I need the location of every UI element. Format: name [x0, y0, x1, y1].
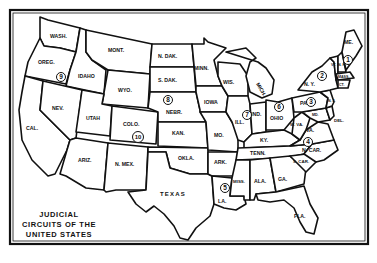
svg-text:6: 6	[277, 103, 281, 110]
label-nd: N. DAK.	[158, 53, 178, 59]
label-la: LA.	[218, 198, 227, 204]
label-al: ALA.	[254, 178, 267, 184]
label-ga: GA.	[278, 176, 288, 182]
label-va: VA.	[306, 127, 315, 133]
label-de: DEL.	[334, 118, 344, 123]
state-fl[interactable]	[256, 186, 318, 234]
label-wy: WYO.	[118, 87, 132, 93]
circuit-marker-2[interactable]: 2	[318, 72, 327, 81]
label-oh: OHIO	[270, 115, 283, 121]
label-ky: KY.	[260, 137, 269, 143]
label-ne: NEBR.	[166, 109, 183, 115]
map-title-line-2: CIRCUITS OF THE	[22, 220, 96, 229]
label-sc: S. CAR.	[293, 159, 309, 164]
circuit-marker-7[interactable]: 7	[243, 111, 252, 120]
label-az: ARIZ.	[78, 157, 92, 163]
label-md: MD.	[312, 113, 319, 117]
label-vt: VT.	[331, 63, 336, 67]
svg-text:5: 5	[223, 184, 227, 191]
judicial-circuits-map: WASH. OREG. CAL. IDAHO NEV. MONT. WYO. U…	[0, 0, 377, 263]
label-me: ME.	[344, 39, 354, 45]
circuit-marker-1[interactable]: 1	[344, 56, 353, 65]
label-il: ILL.	[235, 119, 245, 125]
label-wv: W. VA.	[290, 122, 303, 127]
label-ut: UTAH	[86, 115, 100, 121]
label-or: OREG.	[38, 59, 55, 65]
label-mn: MINN.	[194, 65, 209, 71]
state-nm[interactable]	[104, 143, 148, 192]
circuit-marker-4[interactable]: 4	[304, 138, 313, 147]
label-sd: S. DAK.	[158, 77, 178, 83]
label-tx: TEXAS	[160, 191, 186, 197]
svg-text:2: 2	[320, 72, 324, 79]
svg-text:1: 1	[346, 56, 350, 63]
label-ma: MASS.	[338, 75, 349, 79]
circuit-marker-5[interactable]: 5	[221, 184, 230, 193]
label-co: COLO.	[123, 121, 140, 127]
svg-text:3: 3	[309, 98, 313, 105]
svg-text:4: 4	[306, 138, 310, 145]
label-ny: N. Y.	[304, 81, 315, 87]
label-id: IDAHO	[78, 73, 95, 79]
svg-text:9: 9	[59, 73, 63, 80]
circuit-marker-10[interactable]: 10	[133, 132, 144, 143]
circuit-marker-6[interactable]: 6	[275, 103, 284, 112]
svg-text:7: 7	[245, 111, 249, 118]
label-ia: IOWA	[204, 99, 218, 105]
label-ks: KAN.	[172, 130, 185, 136]
svg-text:10: 10	[135, 134, 142, 140]
label-wa: WASH.	[50, 33, 68, 39]
label-mt: MONT.	[108, 47, 125, 53]
map-title-line-1: JUDICIAL	[39, 210, 78, 219]
label-ct: CT.	[339, 83, 345, 87]
label-nv: NEV.	[52, 105, 64, 111]
circuit-marker-8[interactable]: 8	[164, 96, 173, 105]
label-in: IND.	[251, 111, 262, 117]
state-in[interactable]	[250, 102, 266, 134]
svg-text:8: 8	[166, 96, 170, 103]
label-nm: N. MEX.	[115, 161, 135, 167]
label-tn: TENN.	[250, 150, 266, 156]
label-mo: MO.	[214, 132, 224, 138]
label-ca: CAL.	[26, 125, 39, 131]
label-ms: MISS.	[233, 179, 245, 184]
label-ar: ARK.	[214, 159, 227, 165]
map-title-line-3: UNITED STATES	[26, 230, 92, 239]
label-nj: N. J.	[328, 99, 336, 103]
label-wi: WIS.	[223, 79, 235, 85]
label-nc: N. CAR.	[302, 147, 322, 153]
circuit-marker-3[interactable]: 3	[307, 98, 316, 107]
circuit-marker-9[interactable]: 9	[57, 73, 66, 82]
label-fl: FLA.	[294, 213, 306, 219]
label-ok: OKLA.	[178, 155, 195, 161]
